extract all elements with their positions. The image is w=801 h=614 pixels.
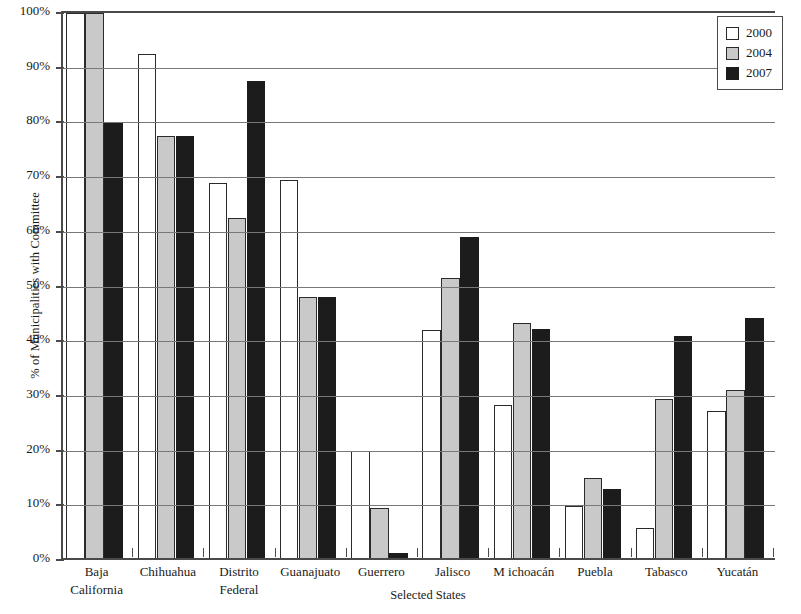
bar <box>707 411 726 560</box>
plot-area <box>61 11 775 560</box>
bar <box>422 330 441 560</box>
legend-swatch-2004 <box>726 47 739 60</box>
legend-item: 2004 <box>726 43 772 63</box>
x-axis-category-label-line: Yucatán <box>684 563 791 581</box>
x-axis-tick-mark <box>61 548 62 557</box>
bar <box>228 218 247 560</box>
y-axis-tick-mark <box>56 12 64 14</box>
x-axis-tick-mark <box>346 548 347 557</box>
bar <box>318 297 337 560</box>
bar <box>674 336 693 560</box>
x-axis-category-label: Yucatán <box>684 563 791 581</box>
bar <box>655 399 674 560</box>
y-axis-tick-label: 50% <box>26 277 50 293</box>
x-axis-tick-mark <box>417 548 418 557</box>
bar <box>565 506 584 560</box>
legend: 200020042007 <box>717 16 783 90</box>
legend-label: 2007 <box>746 65 772 81</box>
bar-chart: % of Municipalities with Committee 0%10%… <box>0 0 801 614</box>
bar <box>299 297 318 560</box>
bar <box>636 528 655 560</box>
y-axis-tick-label: 10% <box>26 495 50 511</box>
y-axis-tick-label: 70% <box>26 167 50 183</box>
x-axis-tick-mark <box>702 548 703 557</box>
x-axis-line <box>61 558 775 560</box>
bar <box>209 183 228 560</box>
legend-item: 2007 <box>726 63 772 83</box>
gridline <box>63 287 775 288</box>
x-axis-tick-mark <box>488 548 489 557</box>
y-axis-tick-label: 30% <box>26 386 50 402</box>
bar <box>603 489 622 560</box>
y-axis-tick-label: 20% <box>26 441 50 457</box>
gridline <box>63 68 775 69</box>
x-axis-tick-mark <box>773 548 774 557</box>
bar <box>247 81 266 560</box>
x-axis-tick-mark <box>631 548 632 557</box>
legend-swatch-2007 <box>726 67 739 80</box>
bar <box>176 136 195 560</box>
gridline <box>63 505 775 506</box>
y-axis-tick-label: 90% <box>26 58 50 74</box>
x-axis-tick-mark <box>203 548 204 557</box>
x-axis-tick-mark <box>132 548 133 557</box>
gridline <box>63 122 775 123</box>
y-axis-tick-label: 40% <box>26 331 50 347</box>
gridline <box>63 232 775 233</box>
bar <box>138 54 157 560</box>
y-axis-tick-label: 60% <box>26 222 50 238</box>
y-axis-tick-labels: 0%10%20%30%40%50%60%70%80%90%100% <box>0 0 58 614</box>
bar <box>584 478 603 560</box>
gridline <box>63 396 775 397</box>
bar <box>745 318 764 560</box>
legend-label: 2000 <box>746 25 772 41</box>
legend-swatch-2000 <box>726 27 739 40</box>
bar <box>532 329 551 560</box>
gridline <box>63 177 775 178</box>
legend-label: 2004 <box>746 45 772 61</box>
bar <box>370 508 389 560</box>
bar <box>726 390 745 560</box>
gridline <box>63 341 775 342</box>
gridline <box>63 451 775 452</box>
bar <box>441 278 460 560</box>
x-axis-title: Selected States <box>0 588 801 603</box>
y-axis-tick-label: 80% <box>26 112 50 128</box>
bar <box>494 405 513 560</box>
bar <box>157 136 176 560</box>
bar <box>513 323 532 560</box>
legend-item: 2000 <box>726 23 772 43</box>
bar <box>280 180 299 560</box>
x-axis-tick-mark <box>559 548 560 557</box>
y-axis-tick-label: 100% <box>20 3 50 19</box>
x-axis-tick-mark <box>275 548 276 557</box>
